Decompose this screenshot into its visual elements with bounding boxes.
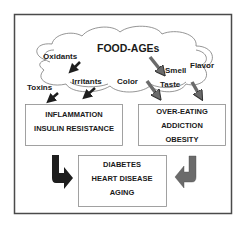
bottom-box-line-3: AGING	[110, 188, 135, 197]
right-box-line-1: OVER-EATING	[156, 107, 208, 116]
cloud-title: FOOD-AGEs	[97, 42, 160, 54]
factor-toxins: Toxins	[27, 83, 53, 92]
factor-smell: Smell	[165, 66, 186, 75]
food-ages-diagram: FOOD-AGEs Oxidants Irritants Toxins Colo…	[0, 0, 246, 229]
factor-irritants: Irritants	[72, 77, 102, 86]
factor-oxidants: Oxidants	[43, 52, 78, 61]
bottom-box-line-1: DIABETES	[103, 160, 141, 169]
right-box-line-3: OBESITY	[166, 135, 199, 144]
bottom-box-line-2: HEART DISEASE	[92, 174, 153, 183]
right-box-line-2: ADDICTION	[161, 121, 203, 130]
left-box-line-1: INFLAMMATION	[45, 110, 102, 119]
factor-taste: Taste	[160, 80, 181, 89]
left-box-line-2: INSULIN RESISTANCE	[34, 124, 114, 133]
factor-flavor: Flavor	[190, 61, 214, 70]
factor-color: Color	[117, 77, 138, 86]
